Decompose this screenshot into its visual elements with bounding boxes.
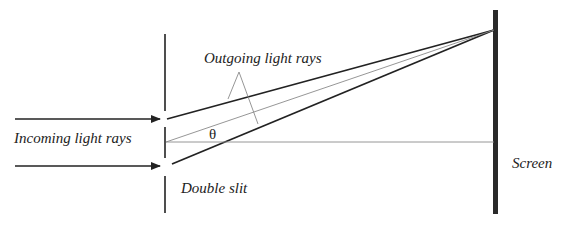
screen-bar <box>493 10 498 214</box>
double-slit-diagram: Outgoing light rays Incoming light rays … <box>0 0 567 226</box>
outgoing-rays-label: Outgoing light rays <box>204 50 322 66</box>
label-pointer-left <box>228 72 239 99</box>
outgoing-ray-top <box>167 30 494 119</box>
theta-angle-label: θ <box>209 126 216 142</box>
double-slit-label: Double slit <box>180 180 248 196</box>
incoming-rays-label: Incoming light rays <box>13 130 132 146</box>
screen-label: Screen <box>512 155 552 171</box>
